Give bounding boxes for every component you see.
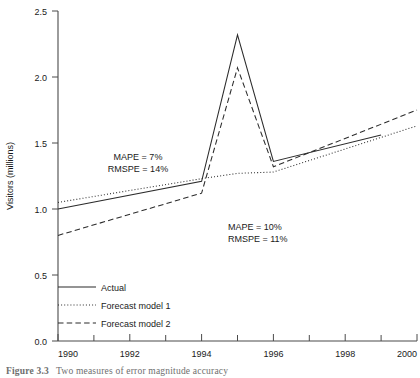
y-tick-label: 2.0 (34, 73, 47, 83)
chart-legend: Actual Forecast model 1 Forecast model 2 (58, 283, 171, 329)
figure-container: 2.5 2.0 1.5 1.0 0.5 0.0 Visitors (millio… (0, 0, 420, 378)
legend-item-forecast-model-2[interactable]: Forecast model 2 (58, 319, 171, 329)
annotation-line: MAPE = 10% (228, 222, 282, 232)
x-axis-minor-ticks (94, 335, 381, 341)
y-tick-label: 0.5 (34, 271, 47, 281)
y-axis-ticks (52, 11, 58, 341)
annotation-line: RMSPE = 14% (108, 164, 168, 174)
y-axis-title: Visitors (millions) (5, 142, 15, 210)
x-tick-label: 1996 (263, 349, 283, 359)
legend-item-actual[interactable]: Actual (58, 283, 126, 293)
series-line-forecast-model-2 (58, 68, 417, 236)
y-tick-label: 1.0 (34, 205, 47, 215)
x-tick-label: 1994 (192, 349, 212, 359)
x-tick-label: 2000 (397, 349, 417, 359)
x-tick-label: 1998 (335, 349, 355, 359)
y-axis-tick-labels: 2.5 2.0 1.5 1.0 0.5 0.0 (34, 7, 47, 347)
figure-caption: Figure 3.3Two measures of error magnitud… (6, 366, 420, 378)
y-tick-label: 2.5 (34, 7, 47, 17)
y-tick-label: 1.5 (34, 139, 47, 149)
legend-label: Forecast model 1 (101, 301, 171, 311)
series-line-actual (58, 35, 381, 209)
annotation-line: MAPE = 7% (114, 152, 163, 162)
figure-caption-number: Figure 3.3 (6, 366, 49, 376)
x-axis-tick-labels: 1990 1992 1994 1996 1998 2000 (58, 349, 417, 359)
figure-caption-text: Two measures of error magnitude accuracy (56, 366, 228, 376)
annotation-line: RMSPE = 11% (228, 234, 288, 244)
annotation-upper-left: MAPE = 7% RMSPE = 14% (108, 152, 168, 174)
legend-label: Forecast model 2 (101, 319, 171, 329)
chart-canvas: 2.5 2.0 1.5 1.0 0.5 0.0 Visitors (millio… (0, 0, 420, 378)
legend-label: Actual (101, 283, 126, 293)
y-tick-label: 0.0 (34, 337, 47, 347)
x-tick-label: 1992 (120, 349, 140, 359)
legend-item-forecast-model-1[interactable]: Forecast model 1 (58, 301, 171, 311)
x-tick-label: 1990 (58, 349, 78, 359)
annotation-lower-right: MAPE = 10% RMSPE = 11% (228, 222, 288, 244)
